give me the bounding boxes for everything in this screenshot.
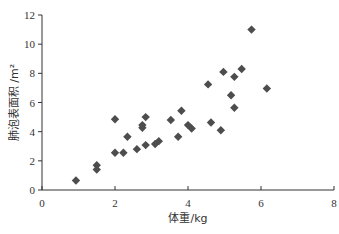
y-axis-title: 肺泡表面积 /m² [7, 64, 21, 141]
data-point [204, 80, 212, 88]
y-tick-label: 2 [30, 155, 36, 167]
data-point [72, 176, 80, 184]
scatter-chart: 02468101202468 体重/kg 肺泡表面积 /m² [0, 0, 339, 234]
y-tick-label: 8 [30, 67, 36, 79]
x-axis-title: 体重/kg [168, 211, 207, 225]
x-tick-label: 4 [185, 197, 191, 209]
data-point [167, 116, 175, 124]
x-tick-label: 8 [331, 197, 337, 209]
data-point [219, 68, 227, 76]
y-tick-label: 6 [30, 97, 36, 109]
data-point [263, 84, 271, 92]
y-tick-label: 0 [30, 184, 36, 196]
data-point [230, 104, 238, 112]
x-tick-label: 2 [112, 197, 118, 209]
x-tick-label: 0 [39, 197, 45, 209]
data-point [119, 149, 127, 157]
data-point [207, 118, 215, 126]
data-point [177, 107, 185, 115]
y-tick-label: 4 [30, 126, 36, 138]
data-point [111, 115, 119, 123]
data-point [141, 141, 149, 149]
x-tick-label: 6 [258, 197, 264, 209]
data-point [174, 133, 182, 141]
data-points [72, 25, 271, 184]
data-point [133, 145, 141, 153]
y-tick-label: 10 [24, 38, 36, 50]
data-point [111, 149, 119, 157]
data-point [141, 113, 149, 121]
data-point [247, 25, 255, 33]
data-point [123, 133, 131, 141]
data-point [217, 126, 225, 134]
y-tick-label: 12 [24, 9, 35, 21]
data-point [237, 65, 245, 73]
data-point [230, 73, 238, 81]
data-point [227, 91, 235, 99]
data-point [93, 165, 101, 173]
